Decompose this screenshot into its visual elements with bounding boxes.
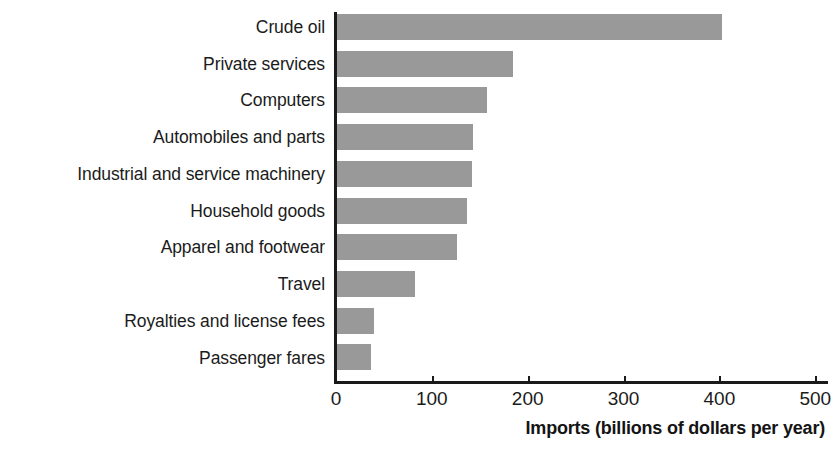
x-tick-label: 400: [689, 388, 749, 410]
bar: [336, 51, 513, 77]
category-label: Crude oil: [0, 14, 325, 40]
bar: [336, 124, 473, 150]
x-tick-label: 100: [402, 388, 462, 410]
category-label: Industrial and service machinery: [0, 161, 325, 187]
x-tick-label: 0: [306, 388, 366, 410]
y-axis-line: [334, 12, 337, 383]
bar: [336, 14, 722, 40]
category-label: Royalties and license fees: [0, 308, 325, 334]
bar: [336, 308, 374, 334]
category-label: Private services: [0, 51, 325, 77]
category-label: Apparel and footwear: [0, 234, 325, 260]
plot-area: [336, 14, 828, 382]
x-tick-label: 300: [594, 388, 654, 410]
category-label: Travel: [0, 271, 325, 297]
bar: [336, 344, 371, 370]
x-tick-mark: [719, 376, 721, 383]
x-axis-title: Imports (billions of dollars per year): [0, 418, 829, 439]
x-tick-mark: [432, 376, 434, 383]
category-label: Household goods: [0, 198, 325, 224]
bar: [336, 198, 467, 224]
bar: [336, 271, 415, 297]
x-tick-label: 200: [498, 388, 558, 410]
x-tick-mark: [528, 376, 530, 383]
category-axis-labels: Crude oil Private services Computers Aut…: [0, 14, 325, 382]
category-label: Automobiles and parts: [0, 124, 325, 150]
bar: [336, 87, 487, 113]
category-label: Passenger fares: [0, 345, 325, 371]
x-tick-mark: [624, 376, 626, 383]
bar: [336, 234, 457, 260]
x-axis-line: [334, 381, 828, 384]
x-tick-label: 500: [785, 388, 835, 410]
bar: [336, 161, 472, 187]
x-tick-mark: [815, 376, 817, 383]
category-label: Computers: [0, 87, 325, 113]
